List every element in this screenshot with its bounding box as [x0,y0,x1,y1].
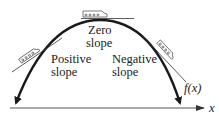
car-icon-top [83,11,107,17]
zero-slope-label-line2: slope [86,36,113,50]
positive-slope-label-line1: Positive [51,52,92,66]
zero-slope-label-line1: Zero [88,23,112,37]
function-label: f(x) [184,81,201,95]
x-axis-label: x [208,101,215,115]
slope-diagram: x Zero slope Positive slope Negative slo… [0,0,219,125]
negative-slope-label-line2: slope [112,65,139,79]
positive-slope-label-line2: slope [51,65,78,79]
negative-slope-label-line1: Negative [112,52,158,66]
